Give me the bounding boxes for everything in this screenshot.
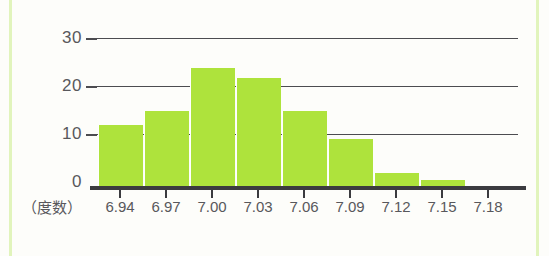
- x-tick-7.06: [303, 190, 305, 198]
- x-tick-slot: [465, 190, 511, 198]
- bar-slot: [373, 173, 419, 187]
- y-axis-label-10: 10: [42, 124, 82, 144]
- x-axis-ticks: [97, 190, 518, 198]
- x-tick-slot: [143, 190, 189, 198]
- bar-slot: [189, 68, 235, 187]
- histogram-chart: 30 20 10 0 6.946.977.007.037.067.097.127…: [0, 0, 549, 256]
- x-axis-label-6.94: 6.94: [97, 198, 143, 215]
- bar-slot: [327, 139, 373, 187]
- x-tick-7.18: [487, 190, 489, 198]
- x-axis-label-7.15: 7.15: [419, 198, 465, 215]
- y-axis-label-0: 0: [42, 172, 82, 192]
- bar-slot: [235, 78, 281, 187]
- bar-6.97: [144, 111, 189, 187]
- x-axis-labels: 6.946.977.007.037.067.097.127.157.18: [97, 198, 518, 215]
- x-axis-label-7.03: 7.03: [235, 198, 281, 215]
- bar-7.12: [374, 173, 419, 187]
- x-tick-7.12: [395, 190, 397, 198]
- x-tick-7.03: [257, 190, 259, 198]
- histogram-figure: 30 20 10 0 6.946.977.007.037.067.097.127…: [0, 0, 549, 256]
- x-tick-7.15: [441, 190, 443, 198]
- x-axis-label-7.00: 7.00: [189, 198, 235, 215]
- y-tick-10: [86, 134, 97, 136]
- x-axis-label-7.12: 7.12: [373, 198, 419, 215]
- x-tick-slot: [419, 190, 465, 198]
- x-tick-slot: [189, 190, 235, 198]
- bar-6.94: [98, 125, 143, 187]
- frequency-caption: （度数）: [22, 196, 82, 217]
- bar-slot: [97, 125, 143, 187]
- x-tick-slot: [97, 190, 143, 198]
- x-axis-label-7.09: 7.09: [327, 198, 373, 215]
- x-tick-slot: [373, 190, 419, 198]
- y-tick-20: [86, 86, 97, 88]
- y-tick-30: [86, 38, 97, 40]
- x-axis-label-7.06: 7.06: [281, 198, 327, 215]
- bar-slot: [143, 111, 189, 187]
- x-tick-7.09: [349, 190, 351, 198]
- x-axis-label-6.97: 6.97: [143, 198, 189, 215]
- y-axis-label-30: 30: [42, 28, 82, 48]
- bar-slot: [281, 111, 327, 187]
- bar-7.00: [190, 68, 235, 187]
- x-tick-6.97: [165, 190, 167, 198]
- bar-7.06: [282, 111, 327, 187]
- x-tick-slot: [235, 190, 281, 198]
- x-tick-slot: [327, 190, 373, 198]
- bar-7.09: [328, 139, 373, 187]
- x-tick-slot: [281, 190, 327, 198]
- x-axis-label-7.18: 7.18: [465, 198, 511, 215]
- x-tick-7.00: [211, 190, 213, 198]
- y-axis-label-20: 20: [42, 76, 82, 96]
- bar-series: [97, 27, 518, 187]
- bar-7.03: [236, 78, 281, 187]
- x-tick-6.94: [119, 190, 121, 198]
